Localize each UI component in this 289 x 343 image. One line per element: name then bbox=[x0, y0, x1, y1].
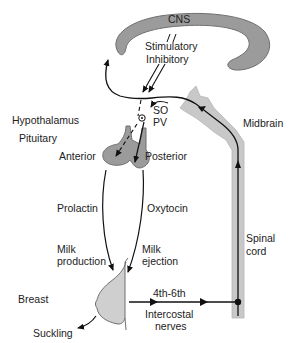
intercostal-arrowhead-2 bbox=[200, 298, 208, 306]
spinal-junction-dot bbox=[235, 299, 241, 305]
nerves-level-label: 4th-6th bbox=[153, 287, 186, 299]
so-label: SO bbox=[153, 104, 168, 116]
nucleus-dot bbox=[141, 117, 143, 119]
spinal-cord-label-2: cord bbox=[246, 245, 266, 257]
pv-label: PV bbox=[153, 116, 167, 128]
cns-label: CNS bbox=[168, 13, 190, 25]
intercostal-label-2: nerves bbox=[155, 320, 187, 332]
pituitary-shape bbox=[103, 126, 150, 168]
anterior-label: Anterior bbox=[59, 150, 96, 162]
pituitary-label: Pituitary bbox=[19, 132, 57, 144]
milk-production-label-1: Milk bbox=[57, 243, 76, 255]
spinal-cord-label-1: Spinal bbox=[246, 232, 275, 244]
posterior-label: Posterior bbox=[145, 150, 187, 162]
milk-ejection-label-1: Milk bbox=[142, 243, 161, 255]
intercostal-label-1: Intercostal bbox=[145, 308, 193, 320]
suckling-arrow bbox=[78, 316, 96, 328]
midbrain-spinal-cord-shape bbox=[180, 86, 244, 318]
inhibitory-label: Inhibitory bbox=[146, 53, 189, 65]
midbrain-label: Midbrain bbox=[243, 117, 283, 129]
oxytocin-label: Oxytocin bbox=[147, 202, 188, 214]
milk-ejection-label-2: ejection bbox=[142, 255, 178, 267]
suckling-label: Suckling bbox=[33, 327, 73, 339]
prolactin-label: Prolactin bbox=[57, 202, 98, 214]
breast-shape bbox=[96, 262, 127, 324]
intercostal-arrowhead-1 bbox=[150, 298, 158, 306]
breast-label: Breast bbox=[18, 293, 48, 305]
milk-production-label-2: production bbox=[57, 255, 106, 267]
hypothalamus-label: Hypothalamus bbox=[12, 114, 79, 126]
stimulatory-label: Stimulatory bbox=[145, 40, 198, 52]
